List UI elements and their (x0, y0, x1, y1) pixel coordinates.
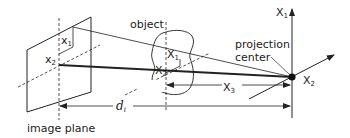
image-x2-label: x2 (45, 53, 56, 67)
object-X1-label: X1 (167, 48, 179, 62)
image-x1-label: x1 (61, 34, 72, 48)
principal-ray (59, 65, 292, 77)
axis-X2-label: X2 (303, 74, 315, 88)
projection-center-leader (271, 57, 290, 75)
projection-center-dot (288, 73, 295, 80)
object-label: object (130, 18, 165, 31)
image-plane-label: image plane (27, 122, 96, 135)
projection-center-label-line2: center (235, 51, 271, 64)
projection-center-label-line1: projection (235, 38, 290, 51)
object-X2-label: X2 (155, 64, 167, 78)
pinhole-camera-diagram: object x1 x2 X1 X2 X3 X1 X2 projection c… (0, 0, 350, 138)
axis-X1-label: X1 (276, 6, 288, 20)
